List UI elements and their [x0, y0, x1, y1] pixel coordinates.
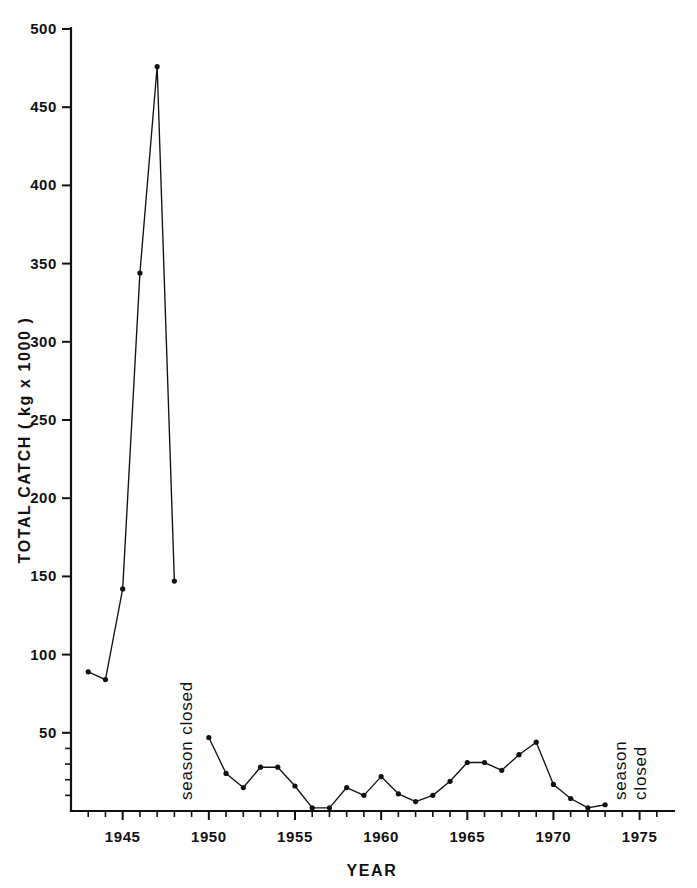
data-point-1951	[223, 771, 228, 776]
catch-line	[88, 67, 605, 808]
y-axis-tick-labels: 50100150200250300350400450500	[30, 20, 57, 741]
x-axis-title: YEAR	[347, 862, 398, 879]
x-tick-label-1965: 1965	[449, 828, 485, 845]
data-point-1952	[241, 785, 246, 790]
x-tick-label-1975: 1975	[622, 828, 658, 845]
y-axis-ticks	[62, 29, 71, 795]
data-point-1954	[275, 765, 280, 770]
data-point-1967	[499, 768, 504, 773]
catch-vs-year-line-chart: 50100150200250300350400450500 1945195019…	[0, 0, 697, 888]
y-tick-label-100: 100	[30, 646, 57, 663]
data-point-1965	[465, 760, 470, 765]
data-point-1946	[137, 270, 142, 275]
data-point-1956	[310, 805, 315, 810]
data-point-1964	[447, 779, 452, 784]
y-tick-label-250: 250	[30, 411, 57, 428]
data-point-1968	[516, 752, 521, 757]
data-point-1966	[482, 760, 487, 765]
y-tick-label-50: 50	[39, 724, 57, 741]
data-point-1969	[534, 740, 539, 745]
data-point-1950	[206, 735, 211, 740]
data-point-1963	[430, 793, 435, 798]
data-series-group	[86, 64, 608, 811]
y-tick-label-400: 400	[30, 176, 57, 193]
y-tick-label-150: 150	[30, 567, 57, 584]
x-axis-tick-labels: 1945195019551960196519701975	[105, 828, 658, 845]
data-point-1970	[551, 782, 556, 787]
data-point-1945	[120, 586, 125, 591]
data-point-1962	[413, 799, 418, 804]
data-point-1944	[103, 677, 108, 682]
x-tick-label-1970: 1970	[536, 828, 572, 845]
y-tick-label-350: 350	[30, 255, 57, 272]
data-point-1955	[292, 783, 297, 788]
data-point-1960	[379, 774, 384, 779]
data-point-1943	[86, 669, 91, 674]
x-tick-label-1960: 1960	[363, 828, 399, 845]
chart-figure: 50100150200250300350400450500 1945195019…	[0, 0, 697, 888]
x-tick-label-1955: 1955	[277, 828, 313, 845]
data-point-1958	[344, 785, 349, 790]
data-point-1972	[585, 805, 590, 810]
data-point-1948	[172, 578, 177, 583]
y-tick-label-300: 300	[30, 333, 57, 350]
data-point-markers	[86, 64, 608, 811]
data-point-1961	[396, 791, 401, 796]
data-point-1973	[603, 802, 608, 807]
y-tick-label-200: 200	[30, 489, 57, 506]
data-point-1953	[258, 765, 263, 770]
annotation-season-closed-right-line0: season	[611, 740, 630, 800]
data-point-1959	[361, 793, 366, 798]
annotation-season-closed-right-line1: closed	[631, 746, 650, 800]
y-axis-title: TOTAL CATCH ( kg x 1000 )	[16, 317, 33, 564]
x-axis-ticks	[88, 811, 657, 820]
data-point-1947	[155, 64, 160, 69]
data-point-1957	[327, 805, 332, 810]
y-tick-label-500: 500	[30, 20, 57, 37]
data-point-1971	[568, 796, 573, 801]
annotation-season-closed-left-line0: season closed	[177, 681, 196, 800]
axes-group	[71, 28, 674, 811]
x-tick-label-1950: 1950	[191, 828, 227, 845]
x-tick-label-1945: 1945	[105, 828, 141, 845]
y-tick-label-450: 450	[30, 98, 57, 115]
